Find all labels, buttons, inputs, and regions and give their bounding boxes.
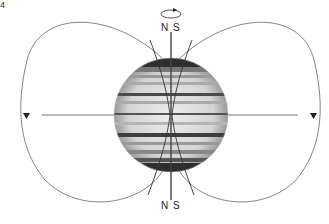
bottom-north-label: N	[161, 200, 168, 211]
jupiter-planet	[110, 58, 235, 172]
top-south-label: S	[173, 22, 180, 33]
jupiter-field-diagram: N S N S	[0, 0, 329, 224]
down-triangle-arrow-icon-right	[310, 113, 317, 119]
down-triangle-arrow-icon-left	[23, 113, 30, 119]
top-north-label: N	[161, 22, 168, 33]
bottom-south-label: S	[173, 200, 180, 211]
counterclockwise-rotation-arrow-icon	[161, 8, 181, 18]
